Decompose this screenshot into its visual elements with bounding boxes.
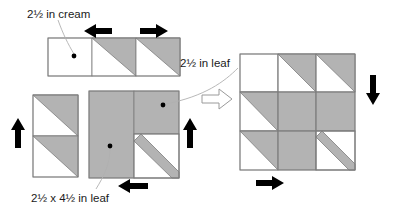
label-leaf-rectangle: 2½ x 4½ in leaf: [31, 192, 110, 204]
leader-cream-dot: [72, 54, 77, 59]
label-cream-square: 2½ in cream: [27, 8, 90, 20]
result-r1c1: [240, 54, 278, 92]
result-r3c2: [278, 131, 316, 170]
quilt-diagram: .leaf { fill: #b3b3b3; stroke: #7d7d7d; …: [0, 0, 397, 211]
label-leaf-square: 2½ in leaf: [180, 57, 231, 69]
diagram-canvas: .leaf { fill: #b3b3b3; stroke: #7d7d7d; …: [0, 0, 397, 211]
leader-leaf-square-dot: [161, 103, 166, 108]
result-r2c2: [278, 92, 316, 131]
left-column-unit: [33, 95, 78, 177]
leader-leaf-rect-dot: [108, 144, 113, 149]
result-r2c3: [316, 92, 355, 131]
top-strip-cell-cream: [48, 38, 92, 76]
center-leaf-square: [134, 91, 179, 134]
center-unit: [89, 91, 179, 178]
finished-block: [240, 54, 355, 170]
center-leaf-rectangle: [89, 91, 134, 178]
